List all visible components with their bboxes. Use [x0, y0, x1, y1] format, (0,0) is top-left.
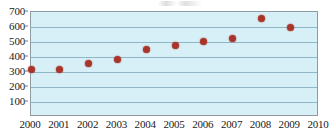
y-tick-label: 100 — [9, 96, 25, 107]
y-axis: 700600500400300200100 — [0, 11, 28, 116]
x-tick-label: 2007 — [221, 118, 242, 130]
data-point — [56, 66, 63, 73]
gridline — [31, 72, 317, 73]
data-point — [143, 46, 150, 53]
scan-artifact — [158, 1, 202, 6]
y-tick-mark — [24, 71, 28, 72]
plot-area — [30, 11, 318, 116]
x-tick-label: 2008 — [250, 118, 271, 130]
y-tick-mark — [24, 86, 28, 87]
data-point — [172, 42, 179, 49]
y-tick-mark — [24, 11, 28, 12]
data-point — [200, 38, 207, 45]
y-tick-label: 500 — [9, 36, 25, 47]
x-tick-label: 2006 — [192, 118, 213, 130]
x-tick-label: 2001 — [48, 118, 69, 130]
data-point — [85, 60, 92, 67]
chart-container: 700600500400300200100 200020012002200320… — [0, 0, 330, 135]
gridline — [31, 87, 317, 88]
x-tick-label: 2002 — [77, 118, 98, 130]
y-tick-label: 600 — [9, 21, 25, 32]
gridline — [31, 57, 317, 58]
y-tick-label: 200 — [9, 81, 25, 92]
y-tick-mark — [24, 41, 28, 42]
data-point — [287, 24, 294, 31]
x-axis: 2000200120022003200420052006200720082009… — [30, 118, 318, 132]
data-point — [258, 15, 265, 22]
data-point — [229, 35, 236, 42]
gridline — [31, 102, 317, 103]
x-tick-label: 2000 — [19, 118, 40, 130]
y-tick-mark — [24, 26, 28, 27]
gridline — [31, 27, 317, 28]
y-tick-label: 300 — [9, 66, 25, 77]
x-tick-label: 2004 — [135, 118, 156, 130]
x-tick-label: 2009 — [279, 118, 300, 130]
data-point — [114, 56, 121, 63]
data-series — [31, 12, 317, 115]
y-tick-label: 400 — [9, 51, 25, 62]
data-point — [28, 66, 35, 73]
x-tick-label: 2005 — [163, 118, 184, 130]
y-tick-mark — [24, 101, 28, 102]
gridlines — [31, 12, 317, 115]
gridline — [31, 42, 317, 43]
y-tick-mark — [24, 56, 28, 57]
x-tick-label: 2003 — [106, 118, 127, 130]
y-tick-label: 700 — [9, 6, 25, 17]
x-tick-label: 2010 — [307, 118, 328, 130]
